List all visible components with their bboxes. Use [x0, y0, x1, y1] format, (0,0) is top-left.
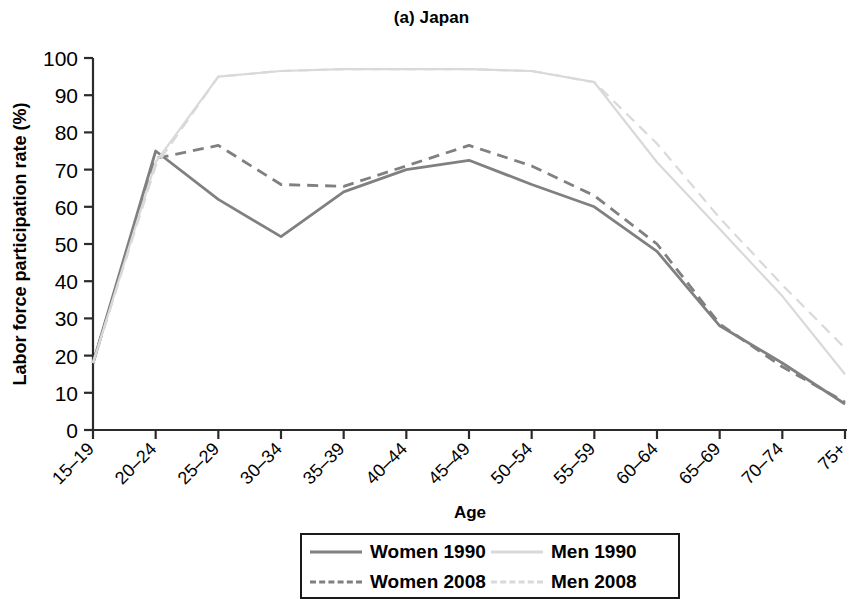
axes	[84, 58, 847, 439]
series-line-women-2008	[93, 145, 845, 402]
x-tick-label: 65–69	[675, 439, 725, 489]
y-axis-title: Labor force participation rate (%)	[10, 102, 30, 385]
legend-item-men-1990: Men 1990	[491, 541, 672, 563]
y-tick-label: 30	[55, 307, 78, 330]
chart-legend: Women 1990 Men 1990 Women 2008 Men 2008	[300, 533, 680, 599]
x-tick-label: 15–19	[48, 439, 98, 489]
legend-swatch-women-2008	[310, 575, 362, 589]
x-tick-label: 25–29	[174, 439, 224, 489]
legend-swatch-men-2008	[491, 575, 543, 589]
y-tick-label: 50	[55, 233, 78, 256]
x-tick-label: 60–64	[612, 439, 662, 489]
y-tick-label: 20	[55, 345, 78, 368]
y-axis-tick-labels: 0102030405060708090100	[43, 47, 78, 442]
series-line-women-1990	[93, 151, 845, 404]
x-tick-label: 45–49	[424, 439, 474, 489]
legend-label-men-1990: Men 1990	[551, 541, 637, 563]
y-axis-ticks	[84, 58, 93, 430]
x-axis-ticks	[93, 430, 845, 439]
series-line-men-2008	[93, 69, 845, 363]
y-tick-label: 10	[55, 382, 78, 405]
x-tick-label: 30–34	[236, 439, 286, 489]
legend-label-men-2008: Men 2008	[551, 571, 637, 593]
x-tick-label: 70–74	[738, 439, 788, 489]
legend-label-women-1990: Women 1990	[370, 541, 486, 563]
x-axis-tick-labels: 15–1920–2425–2930–3435–3940–4445–4950–54…	[48, 439, 850, 489]
x-tick-label: 55–59	[550, 439, 600, 489]
y-tick-label: 70	[55, 159, 78, 182]
legend-swatch-men-1990	[491, 545, 543, 559]
x-tick-label: 50–54	[487, 439, 537, 489]
x-axis-title: Age	[454, 503, 486, 522]
x-tick-label: 20–24	[111, 439, 161, 489]
x-tick-label: 35–39	[299, 439, 349, 489]
y-tick-label: 100	[43, 47, 78, 70]
y-tick-label: 90	[55, 84, 78, 107]
y-tick-label: 60	[55, 196, 78, 219]
legend-item-women-2008: Women 2008	[310, 571, 491, 593]
x-tick-label: 75+	[814, 439, 850, 475]
x-tick-label: 40–44	[362, 439, 412, 489]
y-tick-label: 80	[55, 121, 78, 144]
y-tick-label: 0	[66, 419, 78, 442]
data-series-layer	[93, 69, 845, 404]
legend-item-men-2008: Men 2008	[491, 571, 672, 593]
y-tick-label: 40	[55, 270, 78, 293]
legend-item-women-1990: Women 1990	[310, 541, 491, 563]
legend-swatch-women-1990	[310, 545, 362, 559]
series-line-men-1990	[93, 69, 845, 374]
legend-label-women-2008: Women 2008	[370, 571, 486, 593]
